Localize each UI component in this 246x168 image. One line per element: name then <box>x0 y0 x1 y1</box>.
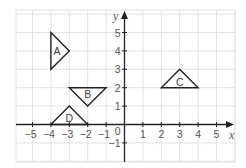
y-axis-label: y <box>112 9 119 23</box>
x-tick-label: 4 <box>195 128 201 140</box>
x-tick-label: 3 <box>177 128 183 140</box>
x-tick-label: −2 <box>80 128 92 140</box>
y-tick-label: 3 <box>115 63 121 75</box>
y-tick-label: 4 <box>115 45 121 57</box>
x-tick-label: 1 <box>140 128 146 140</box>
x-tick-label: 5 <box>214 128 220 140</box>
y-tick-label: 5 <box>115 27 121 39</box>
x-tick-label: 2 <box>158 128 164 140</box>
y-tick-label: 2 <box>115 82 121 94</box>
x-tick-label: −3 <box>61 128 73 140</box>
coordinate-grid: xy −5−4−3−2−11234554321−10 ABCD <box>0 0 246 168</box>
x-tick-label: −4 <box>43 128 55 140</box>
triangle-label: A <box>54 45 61 57</box>
x-tick-label: −5 <box>25 128 37 140</box>
y-tick-label: −1 <box>109 137 121 149</box>
origin-label: 0 <box>115 125 121 137</box>
y-tick-label: 1 <box>115 100 121 112</box>
triangle-label: C <box>176 76 184 88</box>
y-axis-arrow-icon <box>121 11 128 19</box>
triangle-label: B <box>84 88 91 100</box>
x-axis-arrow-icon <box>226 121 234 128</box>
triangle-label: D <box>66 112 74 124</box>
x-axis-label: x <box>228 128 235 142</box>
